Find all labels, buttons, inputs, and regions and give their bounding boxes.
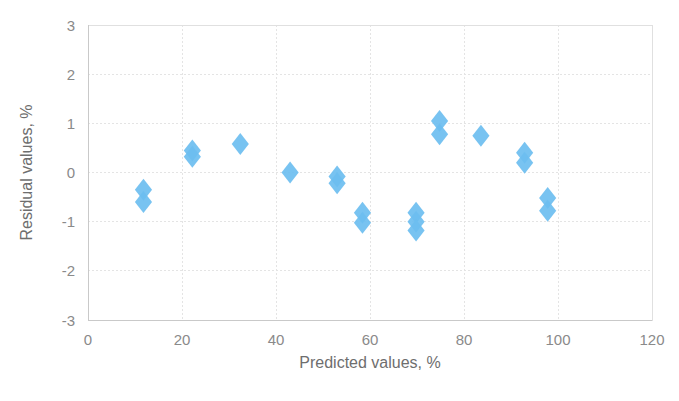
y-tick-label: 3 bbox=[67, 17, 75, 34]
y-axis-title: Residual values, % bbox=[18, 104, 35, 240]
residual-scatter-chart: 3210-1-2-3 020406080100120 Predicted val… bbox=[0, 0, 679, 401]
x-tick-label: 60 bbox=[362, 331, 379, 348]
chart-canvas: 3210-1-2-3 020406080100120 Predicted val… bbox=[0, 0, 679, 401]
chart-background bbox=[0, 0, 679, 401]
x-tick-label: 100 bbox=[545, 331, 570, 348]
x-tick-label: 20 bbox=[174, 331, 191, 348]
x-tick-label: 80 bbox=[456, 331, 473, 348]
x-axis-title: Predicted values, % bbox=[299, 354, 440, 371]
y-tick-label: -3 bbox=[62, 312, 75, 329]
x-tick-label: 0 bbox=[84, 331, 92, 348]
y-tick-label: -1 bbox=[62, 213, 75, 230]
y-tick-label: 1 bbox=[67, 115, 75, 132]
y-tick-label: 0 bbox=[67, 164, 75, 181]
x-tick-label: 40 bbox=[268, 331, 285, 348]
x-tick-label: 120 bbox=[639, 331, 664, 348]
y-tick-label: 2 bbox=[67, 66, 75, 83]
y-tick-label: -2 bbox=[62, 262, 75, 279]
